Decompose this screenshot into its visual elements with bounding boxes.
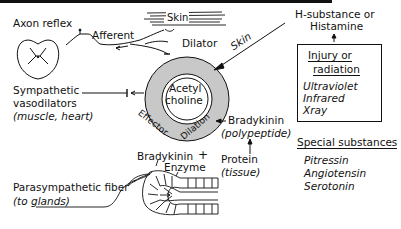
skin-arrow <box>214 23 285 70</box>
special-item-serotonin: Serotonin <box>304 180 355 192</box>
injury-radiation-box: Injury or radiation Ultraviolet Infrared… <box>297 44 382 122</box>
polypeptide-label: (polypeptide) <box>221 127 291 139</box>
bradykinin-polypeptide-label: Bradykinin <box>228 114 284 126</box>
dilator-label: Dilator <box>182 37 217 49</box>
special-substances-title: Special substances <box>297 136 397 149</box>
injury-title-line1: Injury or <box>308 49 352 62</box>
h-substance-label-line2: Histamine <box>310 20 363 32</box>
parasympathetic-label-line1: Parasympathetic fiber <box>13 181 129 193</box>
injury-item-xray: Xray <box>303 104 327 116</box>
special-item-pitressin: Pitressin <box>304 154 349 166</box>
tissue-label: (tissue) <box>221 166 260 178</box>
histamine-arrow <box>332 34 336 42</box>
sympathetic-label-line3: (muscle, heart) <box>13 110 93 122</box>
protein-label: Protein <box>221 153 258 165</box>
injury-title-line2: radiation <box>313 63 360 76</box>
skin-label: Skin <box>166 12 189 24</box>
protein-arrow <box>248 139 252 154</box>
injury-item-infrared: Infrared <box>303 92 345 104</box>
sympathetic-fiber <box>82 89 144 97</box>
sympathetic-label-line2: vasodilators <box>13 97 77 109</box>
choline-label: choline <box>165 94 203 106</box>
top-border <box>0 0 332 3</box>
acetyl-label: Acetyl <box>169 82 201 94</box>
sympathetic-label-line1: Sympathetic <box>13 84 79 96</box>
vasodilation-diagram: Axon reflex Afferent Skin Dilator Skin S… <box>0 0 401 229</box>
spinal-cord-icon <box>17 40 58 79</box>
enzyme-label: Enzyme <box>164 161 206 173</box>
injury-item-ultraviolet: Ultraviolet <box>303 80 358 92</box>
plus-sign: + <box>198 149 208 161</box>
parasympathetic-label-line2: (to glands) <box>13 195 70 207</box>
axon-reflex-label: Axon reflex <box>13 17 72 29</box>
h-substance-label-line1: H-substance or <box>295 8 374 20</box>
afferent-label: Afferent <box>92 29 134 41</box>
special-item-angiotensin: Angiotensin <box>304 167 366 179</box>
